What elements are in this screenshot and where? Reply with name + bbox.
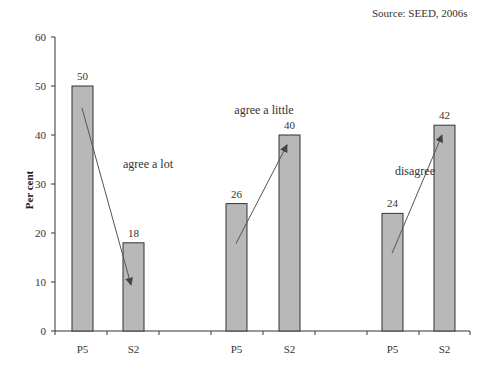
bar	[72, 86, 93, 331]
group-label: agree a lot	[123, 157, 174, 171]
x-category-label: P5	[231, 343, 243, 355]
group-label: disagree	[395, 164, 435, 178]
x-category-label: S2	[128, 343, 140, 355]
x-category-label: S2	[284, 343, 296, 355]
y-tick-label: 60	[35, 31, 47, 43]
source-note: Source: SEED, 2006s	[372, 7, 468, 19]
bar	[123, 243, 144, 331]
bar-value-label: 42	[439, 109, 450, 121]
bar	[226, 204, 247, 331]
bar-value-label: 24	[387, 197, 399, 209]
bar	[279, 135, 300, 331]
y-tick-label: 40	[35, 129, 47, 141]
bar-value-label: 50	[77, 70, 89, 82]
bar-value-label: 26	[231, 188, 243, 200]
y-tick-label: 20	[35, 227, 47, 239]
x-category-label: P5	[387, 343, 399, 355]
y-tick-label: 10	[35, 276, 47, 288]
group-label: agree a little	[234, 103, 293, 117]
bar	[382, 213, 403, 331]
x-category-label: S2	[439, 343, 451, 355]
y-tick-label: 30	[35, 178, 47, 190]
y-tick-label: 0	[41, 325, 47, 337]
y-tick-label: 50	[35, 80, 47, 92]
bar-value-label: 40	[284, 119, 296, 131]
x-category-label: P5	[77, 343, 89, 355]
bar-value-label: 18	[128, 227, 140, 239]
axes: 0102030405060	[35, 31, 470, 337]
bar-chart: Source: SEED, 2006s Per cent 01020304050…	[0, 0, 489, 377]
y-axis-label: Per cent	[23, 170, 35, 209]
bar	[434, 125, 455, 331]
